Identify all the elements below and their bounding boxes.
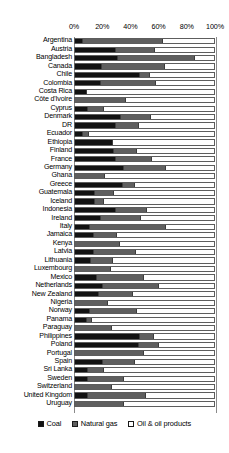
bar-segment-gas [75,385,111,389]
bar-segment-coal [75,393,87,397]
stacked-bar [74,232,215,238]
bar-segment-gas [75,98,125,102]
legend-swatch-icon [38,421,44,427]
bar-segment-gas [102,360,133,364]
bar-segment-gas [75,174,104,178]
stacked-bar [74,342,215,348]
category-label: Sri Lanka [2,365,72,374]
stacked-bar-chart: 0%20%40%60%80%100% ArgentinaAustriaBangl… [0,0,229,453]
axis-tick-label: 100% [206,22,224,32]
stacked-bar [74,274,215,280]
bar-segment-gas [75,301,107,305]
category-label: Netherlands [2,281,72,290]
bar-segment-coal [75,258,90,262]
stacked-bar [74,190,215,196]
bar-segment-coal [75,368,87,372]
category-label: Colombia [2,79,72,88]
stacked-bar [74,72,215,78]
stacked-bar [74,89,215,95]
category-label: Mexico [2,273,72,282]
bar-segment-gas [115,208,146,212]
category-label: Denmark [2,112,72,121]
category-label: Canada [2,62,72,71]
bar-segment-coal [75,284,102,288]
category-label: Argentina [2,36,72,45]
category-label: Ireland [2,214,72,223]
category-label: Costa Rica [2,87,72,96]
category-label: Ghana [2,171,72,180]
category-label: Spain [2,357,72,366]
category-label: Finland [2,146,72,155]
bar-segment-gas [123,166,165,170]
bar-segment-coal [75,90,86,94]
category-label: United Kingdom [2,391,72,400]
bar-segment-oil [154,48,214,52]
bar-segment-oil [86,90,214,94]
bar-segment-oil [91,318,214,322]
stacked-bar [74,106,215,112]
stacked-bar [74,173,215,179]
x-axis-tick-labels: 0%20%40%60%80%100% [0,22,229,34]
stacked-bar [74,55,215,61]
bar-segment-coal [75,292,98,296]
stacked-bar [74,283,215,289]
legend-item: Natural gas [72,419,117,428]
bar-segment-coal [75,191,94,195]
category-label: Philippines [2,332,72,341]
bar-segment-oil [103,199,214,203]
bar-segment-gas [100,81,156,85]
stacked-bar [74,359,215,365]
bar-segment-coal [75,343,138,347]
bar-segment-oil [165,166,214,170]
bar-segment-gas [94,199,103,203]
stacked-bar [74,300,215,306]
bar-segment-oil [135,250,214,254]
chart-row: Uruguay [0,400,229,408]
stacked-bar [74,38,215,44]
stacked-bar [74,122,215,128]
stacked-bar [74,47,215,53]
category-label: Poland [2,340,72,349]
bar-segment-oil [143,275,214,279]
bar-segment-gas [102,284,158,288]
bar-segment-oil [158,284,214,288]
bar-segment-oil [88,132,214,136]
stacked-bar [74,215,215,221]
bar-segment-coal [75,115,120,119]
bar-segment-coal [75,140,112,144]
bar-segment-oil [104,174,214,178]
stacked-bar [74,224,215,230]
category-label: Guatemala [2,188,72,197]
bar-segment-coal [75,39,82,43]
bar-segment-oil [116,233,214,237]
category-label: Chile [2,70,72,79]
bar-segment-gas [115,157,152,161]
chart-legend: CoalNatural gasOil & oil products [0,419,229,428]
axis-tick-label: 80% [180,22,194,32]
bar-segment-oil [112,258,214,262]
bar-segment-oil [110,267,215,271]
bar-segment-coal [75,318,86,322]
bar-segment-gas [98,292,132,296]
stacked-bar [74,182,215,188]
bar-segment-oil [162,39,214,43]
bar-segment-oil [111,326,214,330]
bar-segment-gas [139,334,152,338]
bar-segment-coal [75,48,115,52]
category-label: Bangladesh [2,53,72,62]
bar-segment-coal [75,64,101,68]
stacked-bar [74,401,215,407]
category-label: Jamaica [2,230,72,239]
bar-segment-gas [75,326,111,330]
bar-segment-oil [107,301,214,305]
stacked-bar [74,333,215,339]
bar-segment-oil [119,242,214,246]
bar-segment-coal [75,56,117,60]
bar-segment-coal [75,216,100,220]
bar-segment-gas [113,149,136,153]
category-label: DR [2,121,72,130]
legend-label: Coal [46,419,61,428]
bar-segment-gas [122,183,134,187]
bar-segment-oil [132,292,214,296]
axis-tick-label: 0% [69,22,79,32]
